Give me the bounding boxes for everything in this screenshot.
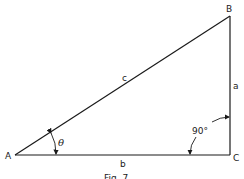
vertex-c-label: C [233, 153, 239, 163]
side-a-label: a [233, 81, 239, 91]
right-angle-arrow-top [212, 117, 229, 122]
side-b-label: b [120, 159, 126, 169]
vertex-b-label: B [226, 4, 232, 14]
side-c-label: c [122, 73, 127, 83]
theta-label: θ [58, 137, 64, 148]
right-angle-label: 90° [192, 126, 208, 136]
right-angle-arrow-bottom [190, 137, 196, 154]
figure-caption: Fig. 7 [104, 173, 128, 179]
triangle-diagram: A B C c a b θ 90° Fig. 7 [0, 0, 244, 179]
theta-arc [51, 133, 56, 154]
vertex-a-label: A [5, 151, 12, 161]
